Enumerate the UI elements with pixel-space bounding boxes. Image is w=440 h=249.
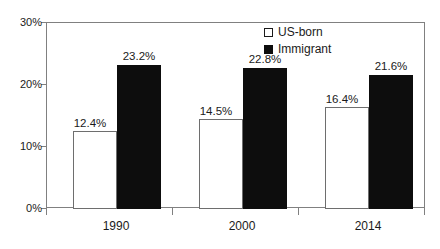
x-cat-label-2014: 2014 bbox=[335, 220, 401, 233]
bar-label-us-born-2000: 14.5% bbox=[189, 105, 243, 117]
bar-us-born-2014 bbox=[325, 107, 369, 209]
legend-swatch-solid-square-icon bbox=[264, 45, 273, 54]
x-cat-label-2000: 2000 bbox=[209, 220, 275, 233]
bar-label-us-born-2014: 16.4% bbox=[315, 93, 369, 105]
legend-label-immigrant: Immigrant bbox=[278, 43, 331, 56]
legend-item-immigrant: Immigrant bbox=[264, 41, 364, 57]
bar-us-born-1990 bbox=[73, 131, 117, 209]
bar-chart: 30% 20% 10% 0% 12.4% 23.2% 14.5% 22.8% 1… bbox=[0, 0, 440, 249]
legend-swatch-hollow-square-icon bbox=[264, 28, 273, 37]
bar-label-immigrant-1990: 23.2% bbox=[112, 50, 166, 62]
legend-item-us-born: US-born bbox=[264, 24, 364, 40]
bar-label-us-born-1990: 12.4% bbox=[63, 117, 117, 129]
bar-label-immigrant-2014: 21.6% bbox=[364, 60, 418, 72]
bar-immigrant-2014 bbox=[369, 75, 413, 209]
bar-immigrant-1990 bbox=[117, 65, 161, 209]
bar-us-born-2000 bbox=[199, 119, 243, 209]
legend: US-born Immigrant bbox=[264, 24, 364, 58]
bar-series-group: 12.4% 23.2% 14.5% 22.8% 16.4% 21.6% bbox=[0, 0, 440, 249]
x-cat-label-1990: 1990 bbox=[83, 220, 149, 233]
bar-immigrant-2000 bbox=[243, 68, 287, 209]
legend-label-us-born: US-born bbox=[278, 26, 323, 39]
